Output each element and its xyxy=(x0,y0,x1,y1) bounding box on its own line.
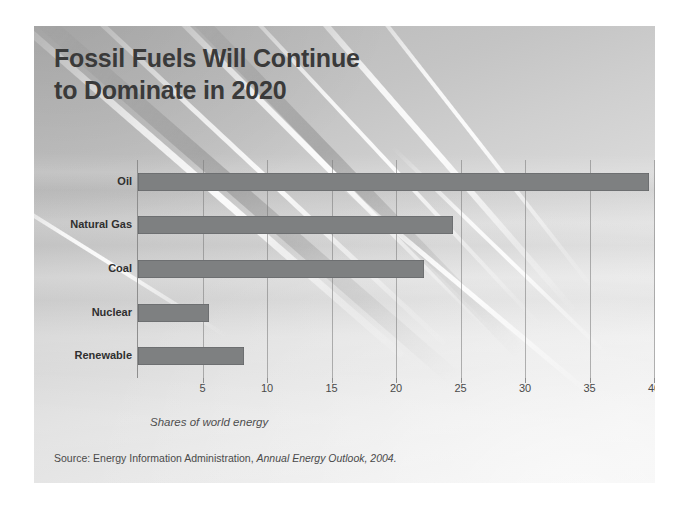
bar-natural-gas[interactable] xyxy=(138,216,453,234)
title-line-2: to Dominate in 2020 xyxy=(54,74,474,106)
slide-canvas: Fossil Fuels Will Continue to Dominate i… xyxy=(34,26,655,483)
x-tick-label-25: 25 xyxy=(454,382,466,394)
bar-renewable[interactable] xyxy=(138,347,244,365)
x-tick-label-35: 35 xyxy=(583,382,595,394)
x-tick-label-40: 40 xyxy=(648,382,655,394)
category-label-coal: Coal xyxy=(108,262,132,274)
bar-row[interactable]: Natural Gas xyxy=(138,216,654,234)
bar-row[interactable]: Oil xyxy=(138,173,654,191)
bar-chart: 510152025303540OilNatural GasCoalNuclear… xyxy=(46,152,646,427)
category-label-renewable: Renewable xyxy=(75,349,132,361)
category-label-nuclear: Nuclear xyxy=(92,306,132,318)
x-tick-label-30: 30 xyxy=(519,382,531,394)
bar-row[interactable]: Renewable xyxy=(138,347,654,365)
category-label-natural-gas: Natural Gas xyxy=(70,218,132,230)
bar-nuclear[interactable] xyxy=(138,304,209,322)
bar-oil[interactable] xyxy=(138,173,649,191)
gridline-40 xyxy=(654,160,655,378)
bar-row[interactable]: Coal xyxy=(138,260,654,278)
x-tick-label-10: 10 xyxy=(261,382,273,394)
source-publication: Annual Energy Outlook, 2004. xyxy=(257,452,397,464)
source-note: Source: Energy Information Administratio… xyxy=(54,452,397,464)
x-tick-label-5: 5 xyxy=(199,382,205,394)
page-title: Fossil Fuels Will Continue to Dominate i… xyxy=(54,42,474,106)
source-prefix: Source: Energy Information Administratio… xyxy=(54,452,254,464)
plot-area: 510152025303540OilNatural GasCoalNuclear… xyxy=(138,160,654,378)
x-axis-label: Shares of world energy xyxy=(150,416,268,428)
x-tick-label-15: 15 xyxy=(325,382,337,394)
x-tick-label-20: 20 xyxy=(390,382,402,394)
slide-root: Fossil Fuels Will Continue to Dominate i… xyxy=(0,0,687,507)
bar-row[interactable]: Nuclear xyxy=(138,304,654,322)
bar-coal[interactable] xyxy=(138,260,424,278)
title-line-1: Fossil Fuels Will Continue xyxy=(54,42,474,74)
category-label-oil: Oil xyxy=(117,175,132,187)
